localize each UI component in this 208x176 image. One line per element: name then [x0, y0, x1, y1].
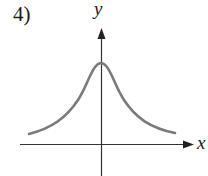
graph [0, 0, 208, 176]
y-axis-arrow-icon [98, 28, 106, 39]
x-axis-arrow-icon [183, 141, 194, 149]
y-axis [98, 28, 106, 176]
x-axis [20, 141, 194, 149]
